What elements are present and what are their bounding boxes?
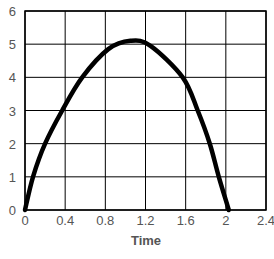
y-tick-label: 2 xyxy=(9,137,16,152)
y-axis-ticks: 0123456 xyxy=(9,4,16,218)
x-axis-ticks: 00.40.81.21.622.4 xyxy=(21,213,274,228)
y-tick-label: 6 xyxy=(9,4,16,19)
y-tick-label: 5 xyxy=(9,37,16,52)
data-line xyxy=(25,41,229,210)
y-tick-label: 1 xyxy=(9,170,16,185)
y-tick-label: 0 xyxy=(9,203,16,218)
x-tick-label: 0.8 xyxy=(96,213,114,228)
x-tick-label: 2.4 xyxy=(257,213,274,228)
x-tick-label: 0.4 xyxy=(56,213,74,228)
y-tick-label: 4 xyxy=(9,70,16,85)
x-tick-label: 1.2 xyxy=(136,213,154,228)
x-tick-label: 1.6 xyxy=(177,213,195,228)
x-tick-label: 2 xyxy=(222,213,229,228)
x-tick-label: 0 xyxy=(21,213,28,228)
y-tick-label: 3 xyxy=(9,104,16,119)
line-chart: 0123456 00.40.81.21.622.4 Time xyxy=(0,0,274,259)
x-axis-label: Time xyxy=(131,233,161,248)
